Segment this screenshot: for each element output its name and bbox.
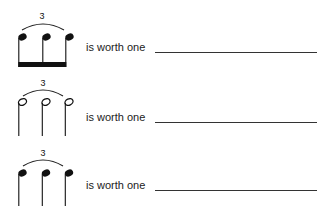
half-note-triplet-icon: 3 <box>0 72 80 140</box>
tuplet-number: 3 <box>39 11 44 21</box>
worth-label: is worth one <box>86 41 145 53</box>
quarter-note-triplet-icon: 3 <box>0 142 80 210</box>
worth-label: is worth one <box>86 111 145 123</box>
worksheet-row-2: 3 is worth one <box>0 72 330 140</box>
answer-blank-3[interactable] <box>155 190 317 191</box>
tuplet-number: 3 <box>40 78 45 88</box>
eighth-note-triplet-icon: 3 <box>0 0 80 70</box>
answer-blank-2[interactable] <box>155 122 317 123</box>
worth-label: is worth one <box>86 179 145 191</box>
worksheet-row-3: 3 is worth one <box>0 142 330 210</box>
tuplet-number: 3 <box>40 148 45 158</box>
worksheet-row-1: 3 is worth one <box>0 0 330 70</box>
answer-blank-1[interactable] <box>155 52 317 53</box>
